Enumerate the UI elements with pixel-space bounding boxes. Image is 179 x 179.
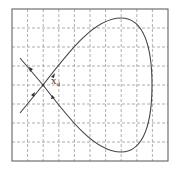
unstable-manifold-branch [20,85,43,113]
stable-manifold-branch [20,58,43,85]
phase-portrait: xd [0,0,179,179]
saddle-point [42,84,45,87]
